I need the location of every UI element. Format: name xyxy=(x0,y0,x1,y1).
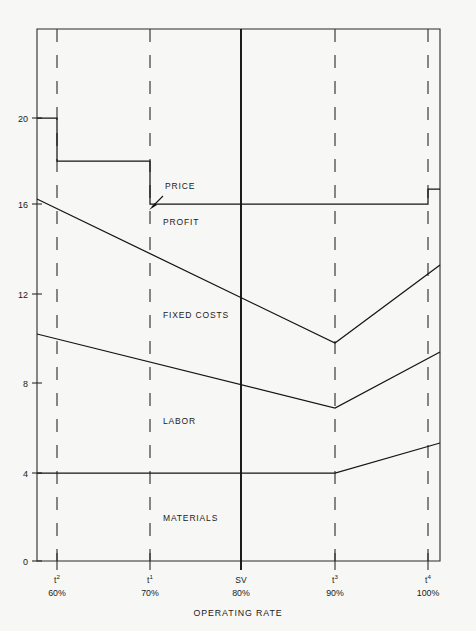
x-pct-90: 90% xyxy=(326,588,344,598)
label-profit: PROFIT xyxy=(163,217,199,227)
break-even-chart: 20 16 12 8 4 0 PRICE PRO xyxy=(0,0,476,631)
y-tick-0: 0 xyxy=(23,557,28,567)
x-code-sv: SV xyxy=(235,575,247,585)
x-pct-70: 70% xyxy=(141,588,159,598)
y-tick-4: 4 xyxy=(23,469,28,479)
y-tick-20: 20 xyxy=(18,114,28,124)
label-price: PRICE xyxy=(165,181,195,191)
label-labor: LABOR xyxy=(163,416,196,426)
x-axis-title: OPERATING RATE xyxy=(193,608,282,618)
chart-background xyxy=(0,0,476,631)
x-pct-60: 60% xyxy=(48,588,66,598)
label-materials: MATERIALS xyxy=(163,513,218,523)
chart-container: 20 16 12 8 4 0 PRICE PRO xyxy=(0,0,476,631)
y-tick-8: 8 xyxy=(23,379,28,389)
y-tick-12: 12 xyxy=(18,290,28,300)
y-tick-16: 16 xyxy=(18,200,28,210)
x-pct-80: 80% xyxy=(232,588,250,598)
x-pct-100: 100% xyxy=(417,588,440,598)
label-fixed-costs: FIXED COSTS xyxy=(163,310,229,320)
